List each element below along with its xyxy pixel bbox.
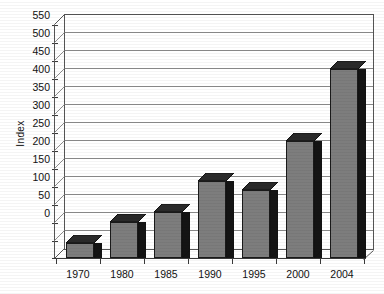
gridline (65, 68, 373, 69)
gridline (65, 50, 373, 51)
bar-top-face (198, 173, 226, 181)
x-tick-mark (100, 259, 101, 264)
bar-side-face (182, 212, 190, 258)
bar-side-face (270, 190, 278, 258)
bar-1980[interactable] (110, 222, 138, 258)
bar-side-face (314, 141, 322, 258)
y-tick-label: 0 (18, 208, 50, 218)
y-tick-label: 150 (18, 154, 50, 164)
gridline-slant (54, 158, 65, 169)
x-tick-label-1990: 1990 (187, 268, 233, 280)
gridline (65, 122, 373, 123)
x-tick-label-1970: 1970 (55, 268, 101, 280)
gridline (65, 32, 373, 33)
x-tick-mark (144, 259, 145, 264)
x-tick-mark (364, 259, 365, 264)
gridline-slant (54, 230, 65, 241)
bar-chart: Index 550 500 450 400 350 300 250 200 15… (0, 0, 384, 294)
bar-1985[interactable] (154, 212, 182, 258)
y-tick-label: 350 (18, 82, 50, 92)
x-tick-mark (232, 259, 233, 264)
y-tick-label: 400 (18, 64, 50, 74)
gridline-slant (54, 122, 65, 133)
y-tick-label: 100 (18, 172, 50, 182)
bar-top-face (330, 61, 358, 69)
x-tick-label-1995: 1995 (231, 268, 277, 280)
bar-1970[interactable] (66, 243, 94, 258)
bar-side-face (358, 69, 366, 258)
bar-2000[interactable] (286, 141, 314, 258)
bar-front-face (110, 222, 138, 258)
bar-top-face (66, 235, 94, 243)
bar-top-face (154, 204, 182, 212)
x-tick-mark (276, 259, 277, 264)
y-tick-label: 550 (18, 10, 50, 20)
gridline-slant (54, 104, 65, 115)
y-axis-tick-labels: 550 500 450 400 350 300 250 200 150 100 … (18, 0, 50, 294)
bar-1990[interactable] (198, 181, 226, 258)
bar-side-face (94, 243, 102, 258)
x-tick-label-1985: 1985 (143, 268, 189, 280)
bar-top-face (110, 214, 138, 222)
x-tick-label-2000: 2000 (275, 268, 321, 280)
gridline-slant (54, 176, 65, 187)
bar-side-face (138, 222, 146, 258)
bar-top-face (242, 182, 270, 190)
gridline (65, 104, 373, 105)
gridline-slant (54, 212, 65, 223)
bar-2004[interactable] (330, 69, 358, 258)
bar-front-face (66, 243, 94, 258)
bar-front-face (154, 212, 182, 258)
y-tick-label: 450 (18, 46, 50, 56)
bar-front-face (242, 190, 270, 258)
gridline-slant (54, 86, 65, 97)
gridline-slant (54, 32, 65, 43)
bar-front-face (286, 141, 314, 258)
bar-front-face (198, 181, 226, 258)
y-tick-label: 50 (18, 190, 50, 200)
gridline-slant (54, 140, 65, 151)
bar-front-face (330, 69, 358, 258)
x-tick-label-2004: 2004 (319, 268, 365, 280)
y-tick-label: 250 (18, 118, 50, 128)
y-tick-label: 500 (18, 28, 50, 38)
x-tick-mark (188, 259, 189, 264)
x-tick-mark (320, 259, 321, 264)
gridline-slant (54, 194, 65, 205)
y-tick-label: 300 (18, 100, 50, 110)
gridline-slant (54, 50, 65, 61)
gridline (65, 158, 373, 159)
gridline-slant (54, 68, 65, 79)
bar-top-face (286, 133, 314, 141)
y-tick-label: 200 (18, 136, 50, 146)
bar-1995[interactable] (242, 190, 270, 258)
x-tick-label-1980: 1980 (99, 268, 145, 280)
bar-side-face (226, 181, 234, 258)
gridline (65, 140, 373, 141)
x-tick-mark (56, 259, 57, 264)
gridline (65, 86, 373, 87)
